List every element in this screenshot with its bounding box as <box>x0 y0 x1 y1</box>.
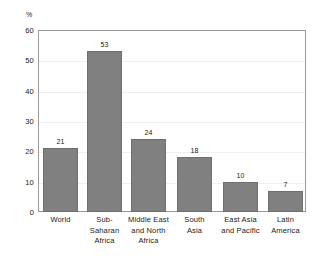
y-tick-10: 10 <box>4 178 34 187</box>
x-label-middle-east-and-north-africa: Middle East and North Africa <box>121 215 176 247</box>
x-label-latin-america-line-2: America <box>261 226 310 237</box>
bar-rect-sub-saharan-africa[interactable] <box>87 51 122 212</box>
x-axis-category-labels: World Sub- Saharan Africa Middle East an… <box>38 215 306 265</box>
bar-sub-saharan-africa[interactable]: 53 <box>87 30 122 212</box>
bar-value-east-asia-and-pacific: 10 <box>223 172 258 180</box>
x-label-middle-east-and-north-africa-line-1: Middle East <box>121 215 176 226</box>
bar-rect-world[interactable] <box>43 148 78 212</box>
bar-world[interactable]: 21 <box>43 30 78 212</box>
y-tick-0: 0 <box>4 208 34 217</box>
bar-east-asia-and-pacific[interactable]: 10 <box>223 30 258 212</box>
bar-value-south-asia: 18 <box>177 147 212 155</box>
bar-value-middle-east-and-north-africa: 24 <box>131 129 166 137</box>
bar-value-sub-saharan-africa: 53 <box>87 41 122 49</box>
bar-rect-east-asia-and-pacific[interactable] <box>223 182 258 212</box>
bar-south-asia[interactable]: 18 <box>177 30 212 212</box>
bar-rect-middle-east-and-north-africa[interactable] <box>131 139 166 212</box>
y-tick-50: 50 <box>4 56 34 65</box>
bar-value-latin-america: 7 <box>268 181 303 189</box>
x-label-middle-east-and-north-africa-line-2: and North <box>121 226 176 237</box>
bar-middle-east-and-north-africa[interactable]: 24 <box>131 30 166 212</box>
x-label-latin-america: Latin America <box>261 215 310 236</box>
bar-value-world: 21 <box>43 138 78 146</box>
y-tick-60: 60 <box>4 26 34 35</box>
y-tick-30: 30 <box>4 117 34 126</box>
y-axis-tick-labels: 60 50 40 30 20 10 0 <box>0 30 34 212</box>
y-axis-unit-label: % <box>26 10 32 19</box>
y-tick-40: 40 <box>4 87 34 96</box>
x-label-latin-america-line-1: Latin <box>261 215 310 226</box>
bars-layer: 21 53 24 18 10 7 <box>38 30 306 212</box>
bar-rect-south-asia[interactable] <box>177 157 212 212</box>
bar-chart-figure: % 60 50 40 30 20 10 0 21 53 24 18 <box>0 0 320 268</box>
bar-latin-america[interactable]: 7 <box>268 30 303 212</box>
x-label-middle-east-and-north-africa-line-3: Africa <box>121 236 176 247</box>
bar-rect-latin-america[interactable] <box>268 191 303 212</box>
y-tick-20: 20 <box>4 147 34 156</box>
